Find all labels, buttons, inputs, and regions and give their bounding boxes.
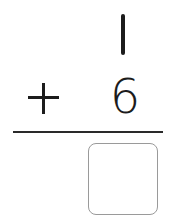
plus-vertical-stroke	[42, 83, 45, 114]
top-number: 1	[0, 0, 1, 1]
operator: +	[0, 0, 1, 1]
top-number-glyph	[121, 14, 125, 55]
answer-input-box[interactable]	[88, 143, 158, 215]
bottom-number: 6	[107, 68, 143, 124]
sum-line-divider	[13, 131, 163, 133]
